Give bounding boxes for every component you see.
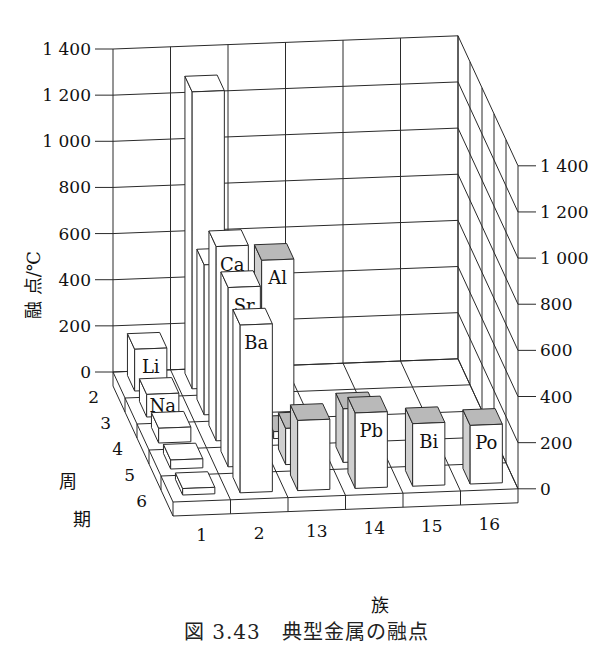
bar-top — [405, 407, 444, 424]
bar-pb: Pb — [348, 396, 387, 488]
bars: LiNaAlCaSrInBaPbBiPo — [127, 75, 502, 495]
bar-top — [254, 244, 293, 261]
bar-ba: Ba — [233, 308, 272, 493]
group-label: 2 — [254, 523, 265, 543]
bar-label: Po — [475, 432, 497, 453]
z-axis-title: 融 点/℃ — [23, 251, 44, 319]
bar-k — [151, 411, 190, 443]
z-tick-label: 0 — [540, 479, 551, 499]
z-tick-label: 800 — [540, 294, 572, 314]
bar-top — [233, 308, 272, 325]
z-tick-label: 1 000 — [540, 248, 589, 268]
z-tick-label: 1 200 — [42, 85, 91, 105]
bar-label: Al — [267, 267, 287, 288]
figure-number: 図 3.43 — [184, 620, 261, 644]
bar-top — [348, 396, 387, 413]
z-tick-label: 1 000 — [42, 131, 91, 151]
bar-front — [159, 427, 191, 443]
bar-front — [183, 487, 215, 495]
z-tick-label: 200 — [59, 316, 91, 336]
z-tick-label: 600 — [540, 340, 572, 360]
group-label: 1 — [196, 525, 207, 545]
bar-tl — [290, 404, 329, 491]
y-axis-title: 周 — [59, 471, 77, 492]
bar-top — [185, 75, 224, 92]
y-axis-title: 期 — [73, 509, 91, 530]
bar-side — [185, 76, 192, 389]
z-tick-label: 400 — [59, 270, 91, 290]
melting-point-3d-chart: LiNaAlCaSrInBaPbBiPo 02004006008001 0001… — [0, 0, 613, 655]
period-label: 2 — [88, 387, 99, 407]
bar-top — [221, 271, 260, 288]
bar-po: Po — [463, 409, 502, 484]
bar-label: Pb — [359, 420, 383, 441]
bar-front — [298, 419, 330, 490]
bar-side — [197, 249, 204, 415]
bar-top — [209, 230, 248, 247]
bar-side — [209, 231, 216, 441]
axis-labels: 02004006008001 0001 2001 400020040060080… — [23, 39, 589, 616]
x-axis-title: 族 — [371, 595, 389, 616]
bar-top — [151, 411, 190, 428]
bar-rb — [163, 443, 202, 469]
period-label: 4 — [112, 439, 123, 459]
group-label: 14 — [363, 518, 385, 538]
bar-side — [233, 309, 240, 492]
group-label: 13 — [306, 521, 328, 541]
bar-label: Bi — [419, 431, 438, 452]
z-tick-label: 800 — [59, 177, 91, 197]
bar-top — [127, 332, 166, 349]
z-tick-label: 600 — [59, 224, 91, 244]
z-tick-label: 200 — [540, 433, 572, 453]
z-tick-label: 400 — [540, 387, 572, 407]
z-tick-label: 1 200 — [540, 202, 589, 222]
figure-caption: 図 3.43 典型金属の融点 — [0, 616, 613, 645]
bar-top — [463, 409, 502, 426]
group-label: 16 — [478, 514, 500, 534]
group-label: 15 — [421, 516, 443, 536]
period-label: 3 — [100, 413, 111, 433]
bar-cs — [175, 472, 214, 495]
period-label: 5 — [124, 465, 135, 485]
z-tick-label: 1 400 — [42, 39, 91, 59]
bar-top — [175, 472, 214, 489]
bar-label: Ba — [244, 332, 268, 353]
bar-top — [139, 378, 178, 395]
period-label: 6 — [136, 491, 147, 511]
bar-front — [171, 459, 203, 469]
bar-top — [163, 443, 202, 460]
bar-top — [290, 404, 329, 421]
bar-bi: Bi — [405, 407, 444, 486]
bar-na: Na — [139, 378, 178, 417]
bar-label: Li — [142, 356, 160, 377]
figure-title: 典型金属の融点 — [282, 620, 429, 644]
bar-side — [221, 272, 228, 467]
z-tick-label: 1 400 — [540, 156, 589, 176]
z-tick-label: 0 — [80, 362, 91, 382]
floor-line — [161, 463, 506, 476]
